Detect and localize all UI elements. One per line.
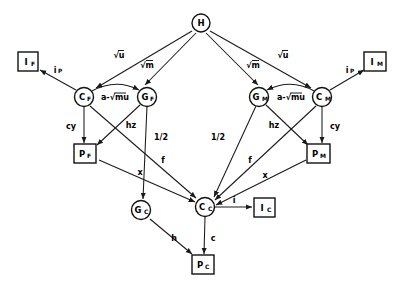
edge-h-to-cf: [96, 31, 192, 88]
edge-label-cf-cc: f: [161, 156, 165, 165]
edge-label-h-cf-text: √u: [113, 51, 124, 60]
edge-label-gf-pf: hz: [126, 121, 137, 130]
node-cf[interactable]: C F: [75, 88, 94, 107]
node-im-label: I: [370, 57, 373, 67]
node-pc[interactable]: P C: [192, 255, 214, 274]
edge-label-cf-gf: a-√mu: [101, 93, 129, 102]
edge-label-cm-im-sub: P: [350, 68, 355, 74]
node-cf-label: C: [79, 92, 85, 102]
node-pf-sub: F: [87, 152, 91, 159]
node-pf-label: P: [79, 149, 85, 159]
node-pf[interactable]: P F: [74, 144, 96, 163]
edge-label-h-cm: √u: [277, 51, 288, 60]
node-pm-label: P: [312, 149, 318, 159]
node-if-sub: F: [31, 60, 35, 67]
node-h[interactable]: H: [192, 14, 210, 32]
edge-cm-to-cc: [215, 106, 316, 200]
node-ic[interactable]: I C: [254, 198, 275, 217]
node-h-label: H: [197, 18, 204, 28]
edge-label-cm-gm-text: a-√mu: [277, 93, 305, 102]
edge-label-pm-cc: x: [262, 171, 268, 180]
edge-h-to-gm: [206, 33, 258, 85]
edge-label-gc-pc: h: [171, 234, 177, 243]
edge-label-h-cm-text: √u: [277, 51, 288, 60]
edge-label-h-gf-text: √m: [140, 61, 154, 70]
edge-label-cc-ic: i: [233, 196, 236, 205]
edge-label-cc-pc: c: [211, 234, 216, 243]
node-gf-sub: F: [150, 95, 154, 102]
node-gc-label: G: [135, 205, 142, 215]
edge-label-cm-im: i P: [346, 66, 355, 75]
edge-label-h-gm: √m: [246, 61, 260, 70]
edge-cf-to-cc: [90, 106, 196, 198]
node-ic-sub: C: [267, 206, 272, 213]
edge-cf-to-gf: [92, 84, 139, 91]
diagram-container: H I F I M C F G: [0, 0, 403, 289]
edge-label-cf-if-sub: P: [58, 68, 63, 74]
edge-label-cm-im-text: i: [346, 66, 349, 75]
node-im[interactable]: I M: [364, 52, 386, 71]
edge-label-cf-pf: cy: [66, 122, 77, 131]
node-gm-label: G: [253, 92, 260, 102]
edge-label-cf-if: i P: [54, 66, 63, 75]
node-gm-sub: M: [262, 95, 268, 102]
edge-label-gf-gc: 1/2: [154, 133, 168, 142]
node-gf-label: G: [142, 92, 149, 102]
node-layer: H I F I M C F G: [18, 14, 386, 274]
node-if[interactable]: I F: [18, 52, 38, 71]
node-pm[interactable]: P M: [307, 144, 330, 163]
node-pc-label: P: [197, 260, 203, 270]
node-gc[interactable]: G C: [132, 201, 151, 220]
edge-label-cf-if-text: i: [54, 66, 57, 75]
edge-label-cf-gf-text: a-√mu: [101, 93, 129, 102]
node-pm-sub: M: [320, 152, 326, 159]
edge-gm-to-cc: [214, 106, 256, 197]
edge-layer: [40, 31, 364, 254]
node-pc-sub: C: [205, 263, 210, 270]
node-if-label: I: [24, 57, 27, 67]
edge-label-cm-gm: a-√mu: [277, 93, 305, 102]
edge-label-gm-pm: hz: [269, 121, 280, 130]
edge-label-gm-cc: 1/2: [211, 133, 225, 142]
node-cm-label: C: [316, 92, 322, 102]
node-im-sub: M: [377, 60, 383, 67]
node-gf[interactable]: G F: [138, 88, 157, 107]
edge-h-to-gf: [145, 33, 196, 85]
node-cf-sub: F: [87, 95, 91, 102]
edge-label-cm-pm: cy: [330, 122, 341, 131]
edge-label-h-cf: √u: [113, 51, 124, 60]
node-gc-sub: C: [144, 208, 149, 215]
node-cm[interactable]: C M: [313, 88, 332, 107]
edge-label-cm-cc: f: [248, 156, 252, 165]
edge-label-h-gf: √m: [140, 61, 154, 70]
node-cm-sub: M: [325, 95, 331, 102]
diagram-canvas: H I F I M C F G: [0, 0, 403, 289]
edge-cc-to-pc: [204, 217, 205, 254]
edge-pf-to-cc: [99, 160, 195, 202]
node-cc-label: C: [199, 202, 205, 212]
edge-label-h-gm-text: √m: [246, 61, 260, 70]
edge-label-pf-cc: x: [137, 168, 143, 177]
node-cc[interactable]: C C: [196, 198, 215, 217]
edge-h-to-cm: [210, 31, 311, 88]
node-gm[interactable]: G M: [250, 88, 269, 107]
node-ic-label: I: [260, 203, 263, 213]
node-cc-sub: C: [208, 205, 213, 212]
